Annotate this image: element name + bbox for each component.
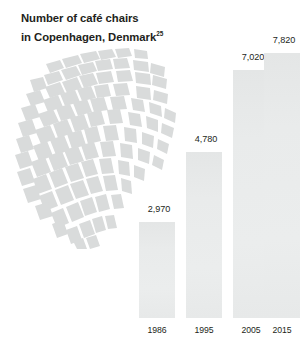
- bar-year-1995: 1995: [182, 325, 226, 335]
- bar-value-1995: 4,780: [184, 134, 228, 144]
- bar-value-1986: 2,970: [137, 204, 181, 214]
- cafe-chairs-infographic: Number of café chairs in Copenhagen, Den…: [0, 0, 307, 357]
- bar-year-1986: 1986: [135, 325, 179, 335]
- bar-year-2015: 2015: [260, 325, 304, 335]
- bar-chart: 2,970 1986 4,780 1995 7,020 2005 7,820 2…: [0, 0, 307, 357]
- bar-value-2015: 7,820: [262, 35, 306, 45]
- bar-1995: [186, 152, 222, 318]
- bar-1986: [139, 222, 175, 318]
- bar-2015: [264, 53, 300, 318]
